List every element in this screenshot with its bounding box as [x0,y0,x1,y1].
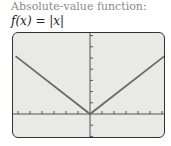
axes [13,33,165,138]
caption: Absolute-value function: [11,0,147,13]
graph-screen [12,32,165,138]
formula: f(x) = |x| [11,14,64,28]
absolute-value-graph [13,33,165,138]
